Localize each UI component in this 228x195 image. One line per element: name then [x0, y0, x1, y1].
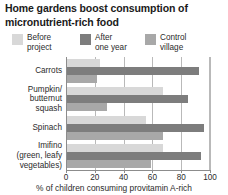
x-tick-label: 80 — [169, 173, 193, 182]
bar — [67, 95, 188, 103]
legend-item-after-one-year: After one year — [80, 33, 127, 53]
bar — [67, 152, 201, 160]
x-tick — [210, 170, 211, 173]
x-axis-title: % of children consuming provitamin A-ric… — [0, 183, 228, 193]
x-tick-label: 20 — [83, 173, 107, 182]
chart-legend: Before project After one year Control vi… — [12, 33, 222, 57]
bar — [67, 87, 163, 95]
x-axis-line — [66, 170, 211, 171]
bar — [67, 132, 163, 140]
x-tick-label: 60 — [140, 173, 164, 182]
bar — [67, 59, 100, 67]
legend-label-before-project: Before project — [27, 33, 52, 53]
plot-area — [66, 57, 210, 170]
bar — [67, 75, 97, 83]
category-label: Carrots — [0, 66, 62, 76]
bar — [67, 103, 107, 111]
bar-group — [67, 87, 210, 111]
x-tick — [95, 170, 96, 173]
x-tick — [181, 170, 182, 173]
bar — [67, 144, 163, 152]
legend-swatch-before-project — [12, 34, 23, 45]
legend-label-after-one-year: After one year — [95, 33, 127, 53]
bar — [67, 160, 151, 168]
bar-group — [67, 116, 210, 140]
bar-group — [67, 144, 210, 168]
category-label: Imifino (green, leafy vegetables) — [0, 141, 62, 170]
legend-swatch-after-one-year — [80, 34, 91, 45]
gridline — [210, 57, 211, 170]
category-label: Pumpkin/ butternut squash — [0, 85, 62, 114]
x-tick-label: 100 — [198, 173, 222, 182]
legend-label-control-village: Control village — [160, 33, 186, 53]
legend-swatch-control-village — [145, 34, 156, 45]
x-tick — [124, 170, 125, 173]
x-tick — [66, 170, 67, 173]
bar — [67, 124, 204, 132]
plot-right-edge — [209, 57, 210, 170]
legend-item-control-village: Control village — [145, 33, 186, 53]
legend-item-before-project: Before project — [12, 33, 52, 53]
x-tick-label: 40 — [112, 173, 136, 182]
x-tick-label: 0 — [54, 173, 78, 182]
chart-title: Home gardens boost consumption of micron… — [5, 2, 223, 29]
bar — [67, 67, 199, 75]
category-label: Spinach — [0, 123, 62, 133]
chart-container: Home gardens boost consumption of micron… — [0, 0, 228, 195]
bar-group — [67, 59, 210, 83]
x-tick — [152, 170, 153, 173]
bar — [67, 116, 146, 124]
